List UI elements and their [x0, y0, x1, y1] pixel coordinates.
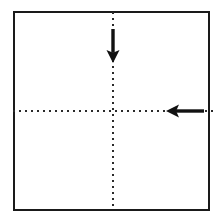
- diagram-canvas: [0, 0, 220, 223]
- origami-fold-diagram: Square paper fold diagram A square sheet…: [0, 0, 220, 223]
